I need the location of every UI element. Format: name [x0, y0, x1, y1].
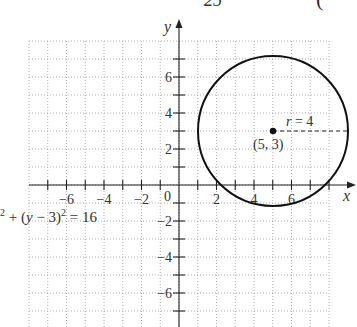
x-axis-label: x: [342, 187, 350, 204]
radius-label-rest: = 4: [291, 114, 313, 129]
x-tick-label: −6: [59, 192, 74, 207]
circle-graph: 25 ( x y 0 −6−4−2246642−2−4−6 r = 4 (5, …: [0, 0, 357, 327]
y-tick-label: −2: [157, 214, 172, 229]
top-clipped-fraction: 25: [204, 0, 222, 10]
equation-var: y: [24, 209, 33, 225]
y-tick-label: −4: [157, 250, 172, 265]
radius-label: r = 4: [286, 114, 313, 129]
y-axis-label: y: [162, 18, 172, 36]
equation-part1: + (: [5, 209, 26, 226]
y-tick-label: −6: [157, 286, 172, 301]
equation-part2: − 3): [33, 209, 61, 226]
y-tick-label: 4: [165, 106, 172, 121]
center-label: (5, 3): [253, 137, 284, 153]
y-tick-label: 2: [165, 142, 172, 157]
x-tick-label: −4: [97, 192, 112, 207]
top-clipped-paren: (: [316, 0, 323, 11]
y-axis-arrow-icon: [176, 19, 183, 28]
x-tick-label: −2: [134, 192, 149, 207]
center-point: [270, 128, 276, 134]
equation-part3: = 16: [66, 209, 97, 225]
equation-label: 2 + (y − 3)2 = 16: [0, 207, 98, 226]
origin-label: 0: [164, 189, 171, 204]
x-tick-label: 2: [213, 192, 220, 207]
y-tick-label: 6: [165, 70, 172, 85]
